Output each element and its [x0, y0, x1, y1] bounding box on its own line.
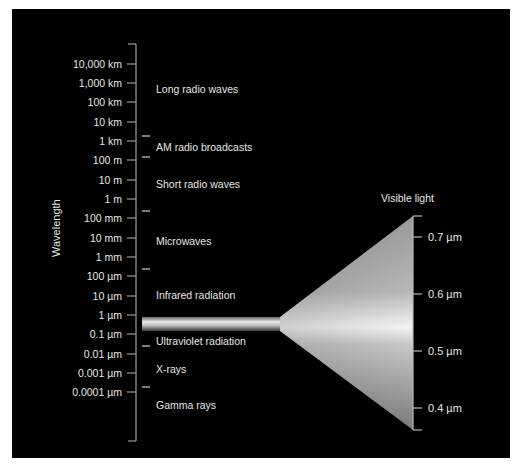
tick-label: 1 µm: [12, 309, 122, 321]
band-label-infrared: Infrared radiation: [156, 289, 235, 301]
band-label-short-radio: Short radio waves: [156, 178, 240, 190]
tick-label: 1 km: [12, 135, 122, 147]
tick-label: 0.1 µm: [12, 328, 122, 340]
tick-label: 10,000 km: [12, 58, 122, 70]
band-label-am-radio: AM radio broadcasts: [156, 141, 252, 153]
visible-light-title: Visible light: [381, 192, 434, 204]
tick-label: 10 mm: [12, 232, 122, 244]
visible-tick-label: 0.7 µm: [428, 231, 462, 243]
tick-label: 10 km: [12, 116, 122, 128]
band-label-xrays: X-rays: [156, 363, 186, 375]
tick-label: 100 mm: [12, 212, 122, 224]
tick-label: 0.01 µm: [12, 348, 122, 360]
tick-label: 100 m: [12, 154, 122, 166]
tick-label: 10 µm: [12, 290, 122, 302]
tick-label: 1 m: [12, 193, 122, 205]
band-label-microwaves: Microwaves: [156, 235, 211, 247]
tick-label: 1 mm: [12, 251, 122, 263]
wavelength-axis: [127, 44, 150, 441]
visible-tick-label: 0.4 µm: [428, 402, 462, 414]
visible-tick-label: 0.5 µm: [428, 345, 462, 357]
spectrum-beam: [142, 216, 413, 430]
band-label-long-radio: Long radio waves: [156, 83, 238, 95]
visible-tick-label: 0.6 µm: [428, 288, 462, 300]
band-label-gamma: Gamma rays: [156, 399, 216, 411]
band-label-ultraviolet: Ultraviolet radiation: [156, 335, 246, 347]
tick-label: 100 µm: [12, 270, 122, 282]
tick-label: 10 m: [12, 174, 122, 186]
tick-label: 0.001 µm: [12, 367, 122, 379]
tick-label: 0.0001 µm: [12, 386, 122, 398]
band-dividers: [142, 136, 150, 387]
tick-label: 1,000 km: [12, 77, 122, 89]
tick-label: 100 km: [12, 96, 122, 108]
visible-light-axis: [413, 216, 422, 430]
y-axis-title: Wavelength: [50, 199, 62, 257]
